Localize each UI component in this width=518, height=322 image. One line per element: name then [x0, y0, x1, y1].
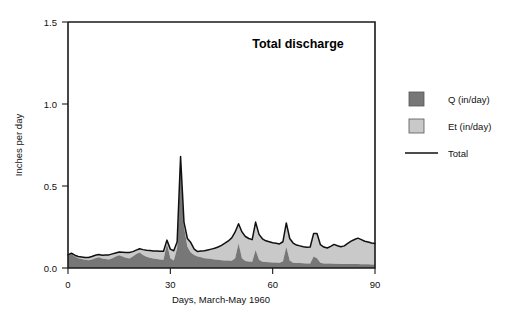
x-tick-label: 30	[165, 279, 176, 290]
x-tick-label: 60	[267, 279, 278, 290]
y-tick-label: 0.5	[44, 181, 57, 192]
legend-label: Q (in/day)	[448, 94, 490, 105]
x-axis-title: Days, March-May 1960	[172, 294, 270, 305]
total-discharge-chart: 0306090 0.00.51.01.5 Total discharge Day…	[0, 0, 518, 322]
legend-swatch	[409, 119, 424, 133]
legend-label: Total	[448, 148, 468, 159]
y-tick-label: 1.0	[44, 99, 57, 110]
y-tick-label: 0.0	[44, 263, 57, 274]
x-tick-label: 0	[65, 279, 70, 290]
x-tick-label: 90	[370, 279, 381, 290]
legend-swatch	[409, 92, 424, 106]
y-axis-title: Inches per day	[13, 114, 24, 177]
chart-figure: 0306090 0.00.51.01.5 Total discharge Day…	[0, 0, 518, 322]
y-tick-label: 1.5	[44, 17, 57, 28]
chart-title: Total discharge	[252, 37, 344, 51]
legend-label: Et (in/day)	[448, 121, 491, 132]
